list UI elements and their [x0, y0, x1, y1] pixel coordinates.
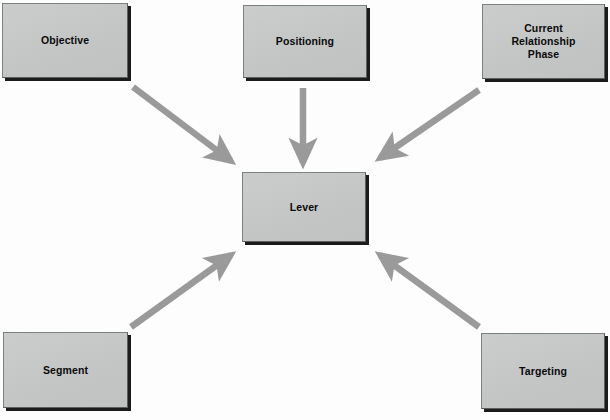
node-positioning-label: Positioning [272, 35, 338, 48]
node-current-relationship-phase-label: Current Relationship Phase [507, 22, 579, 61]
node-objective-label: Objective [37, 34, 93, 47]
node-targeting-label: Targeting [515, 365, 571, 378]
node-current-relationship-phase[interactable]: Current Relationship Phase [482, 4, 605, 79]
edge-objective-to-lever [133, 87, 231, 161]
edge-targeting-to-lever [380, 255, 479, 327]
node-objective[interactable]: Objective [2, 3, 128, 78]
edge-segment-to-lever [131, 255, 231, 327]
diagram-canvas: Objective Positioning Current Relationsh… [0, 0, 610, 420]
node-targeting[interactable]: Targeting [481, 333, 605, 409]
node-lever[interactable]: Lever [242, 172, 366, 242]
node-positioning[interactable]: Positioning [243, 5, 367, 78]
node-lever-label: Lever [286, 201, 323, 214]
node-segment-label: Segment [39, 364, 92, 377]
node-segment[interactable]: Segment [3, 332, 128, 408]
edge-crp-to-lever [380, 90, 479, 158]
